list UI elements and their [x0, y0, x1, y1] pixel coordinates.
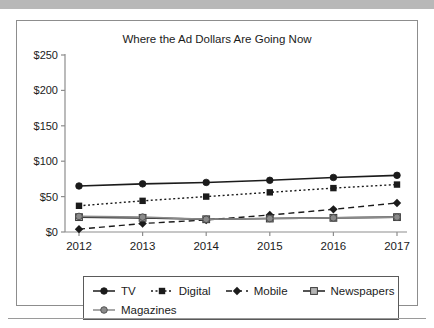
series-digital — [76, 181, 400, 209]
data-point — [267, 177, 274, 184]
data-point — [394, 172, 401, 179]
line-chart-canvas: Where the Ad Dollars Are Going Now $0$50… — [17, 21, 417, 305]
data-point — [267, 215, 274, 222]
y-tick-label: $100 — [34, 155, 58, 167]
data-point — [267, 189, 273, 195]
legend-item-tv[interactable]: TV — [92, 285, 136, 297]
x-tick-label: 2015 — [257, 240, 283, 252]
x-tick-label: 2014 — [193, 240, 219, 252]
x-tick-label: 2016 — [321, 240, 347, 252]
y-tick-label: $0 — [46, 226, 58, 238]
legend-item-label: TV — [121, 285, 136, 297]
legend-item-label: Mobile — [254, 285, 288, 297]
y-axis: $0$50$100$150$200$250 — [34, 49, 65, 238]
series-mobile — [75, 199, 401, 234]
legend-marker-square-filled — [150, 285, 174, 297]
chart-legend: TVDigitalMobileNewspapers Magazines — [83, 276, 399, 320]
data-point — [330, 174, 337, 181]
page-bottom-rule — [8, 318, 426, 319]
legend-item-mobile[interactable]: Mobile — [225, 285, 288, 297]
page-top-band — [0, 0, 434, 9]
y-tick-label: $150 — [34, 120, 58, 132]
legend-item-magazines[interactable]: Magazines — [92, 304, 177, 316]
data-point — [330, 215, 337, 222]
legend-item-newspapers[interactable]: Newspapers — [302, 285, 395, 297]
data-point — [139, 198, 145, 204]
x-tick-label: 2017 — [384, 240, 410, 252]
legend-marker-square-open — [302, 285, 326, 297]
series-layer — [75, 172, 401, 233]
chart-figure: Where the Ad Dollars Are Going Now $0$50… — [16, 20, 418, 306]
legend-item-label: Magazines — [121, 304, 177, 316]
legend-item-label: Newspapers — [331, 285, 395, 297]
data-point — [393, 199, 401, 207]
data-point — [139, 214, 146, 221]
y-tick-label: $200 — [34, 84, 58, 96]
x-tick-label: 2012 — [66, 240, 92, 252]
legend-row-secondary: Magazines — [92, 300, 392, 319]
data-point — [203, 193, 209, 199]
y-tick-label: $250 — [34, 49, 58, 61]
legend-item-label: Digital — [179, 285, 211, 297]
legend-row-primary: TVDigitalMobileNewspapers — [92, 281, 392, 300]
legend-marker-circle-filled — [92, 285, 116, 297]
data-point — [76, 213, 83, 220]
legend-marker-circle-filled-gray — [92, 304, 116, 316]
legend-item-digital[interactable]: Digital — [150, 285, 211, 297]
data-point — [330, 185, 336, 191]
series-tv — [76, 172, 401, 189]
data-point — [329, 205, 337, 213]
data-point — [394, 214, 401, 221]
y-tick-label: $50 — [40, 191, 58, 203]
legend-marker-diamond-filled — [225, 285, 249, 297]
data-point — [203, 216, 210, 223]
chart-title: Where the Ad Dollars Are Going Now — [122, 33, 312, 45]
x-tick-label: 2013 — [130, 240, 156, 252]
data-point — [394, 181, 400, 187]
x-axis: 201220132014201520162017 — [65, 232, 410, 252]
data-point — [76, 183, 83, 190]
data-point — [76, 203, 82, 209]
data-point — [139, 181, 146, 188]
data-point — [203, 179, 210, 186]
